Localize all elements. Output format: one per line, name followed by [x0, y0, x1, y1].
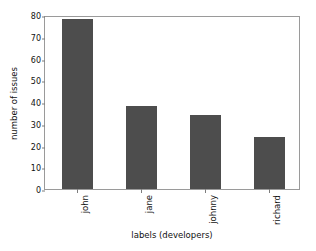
x-tick-label: johnny: [209, 195, 218, 224]
y-tick-label: 60: [31, 57, 41, 65]
y-axis-label: number of issues: [9, 16, 21, 190]
x-tick-label: richard: [273, 195, 282, 225]
y-tick-label: 10: [31, 165, 41, 173]
x-tick-label: jane: [145, 195, 154, 213]
y-tick-label: 50: [31, 78, 41, 86]
x-tick-mark: [77, 189, 78, 193]
plot-area: 01020304050607080 johnjanejohnnyrichard: [44, 16, 300, 190]
bar: [126, 106, 157, 189]
y-tick-mark: [42, 191, 45, 192]
x-tick-mark: [269, 189, 270, 193]
bar: [62, 19, 93, 189]
bar-series: [45, 17, 299, 189]
x-tick-mark: [205, 189, 206, 193]
y-tick-label: 40: [31, 100, 41, 108]
y-tick-label: 0: [36, 187, 41, 195]
x-tick-mark: [141, 189, 142, 193]
y-tick-label: 80: [31, 13, 41, 21]
y-tick-label: 30: [31, 122, 41, 130]
bar-chart-figure: number of issues 01020304050607080 johnj…: [0, 0, 316, 251]
y-axis-label-text: number of issues: [11, 66, 20, 139]
x-axis-label: labels (developers): [44, 230, 300, 240]
x-tick-label: john: [81, 195, 90, 213]
bar: [254, 137, 285, 189]
y-tick-label: 20: [31, 144, 41, 152]
y-tick-label: 70: [31, 35, 41, 43]
bar: [190, 115, 221, 189]
